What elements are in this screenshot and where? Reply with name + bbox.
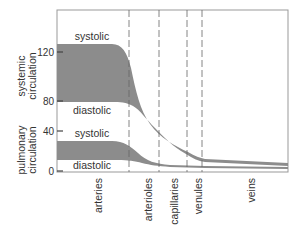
category-capillaries: capillaries: [168, 178, 180, 225]
category-arteries: arteries: [92, 178, 104, 213]
region-dividers: [129, 10, 202, 172]
systemic-diastolic-label: diastolic: [73, 104, 111, 116]
pulmonary-diastolic-label: diastolic: [73, 159, 111, 171]
systemic-systolic-label: systolic: [75, 30, 109, 42]
category-veins: veins: [245, 178, 257, 203]
category-venules: venules: [192, 178, 204, 214]
tick-label-80: 80: [43, 96, 55, 107]
pulmonary-axis-label: pulmonary circulation: [15, 125, 38, 175]
systemic-axis-label: systemic circulation: [15, 52, 38, 99]
tick-label-120: 120: [37, 47, 54, 58]
tick-label-0: 0: [48, 166, 54, 177]
blood-pressure-chart: 120 80 40 0 systemic circulation pulmona…: [0, 0, 305, 237]
svg-text:circulation: circulation: [26, 126, 38, 173]
tick-label-40: 40: [43, 126, 55, 137]
svg-text:circulation: circulation: [26, 52, 38, 99]
pulmonary-systolic-label: systolic: [75, 127, 109, 139]
category-arterioles: arterioles: [142, 178, 154, 221]
